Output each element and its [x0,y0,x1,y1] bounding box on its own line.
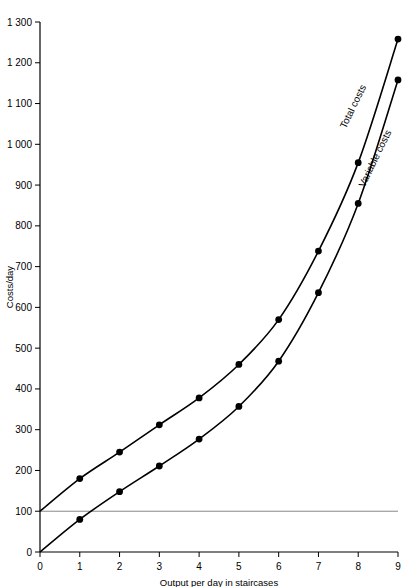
data-point-marker [76,475,83,482]
y-axis-tick-label: 500 [15,343,32,354]
y-axis-tick-label: 0 [26,547,32,558]
data-point-marker [395,36,402,43]
x-axis-tick-label: 4 [196,561,202,572]
x-axis-title: Output per day in staircases [160,577,279,587]
x-axis-tick-label: 2 [117,561,123,572]
y-axis-tick-label: 200 [15,465,32,476]
y-axis-tick-label: 100 [15,506,32,517]
x-axis-tick-label: 1 [77,561,83,572]
y-axis-tick-label: 600 [15,302,32,313]
y-axis-tick-label: 800 [15,220,32,231]
data-point-marker [235,403,242,410]
data-point-marker [355,159,362,166]
data-point-marker [315,289,322,296]
data-point-marker [116,488,123,495]
cost-curves-chart: 01002003004005006007008009001 0001 1001 … [0,0,408,587]
data-point-marker [156,421,163,428]
data-point-marker [395,76,402,83]
series-label-2: Variable costs [356,128,393,189]
data-point-marker [275,316,282,323]
y-axis-tick-label: 700 [15,261,32,272]
y-axis-tick-label: 400 [15,383,32,394]
y-axis-tick-label: 300 [15,424,32,435]
series-label-1: Total costs [338,83,369,130]
data-point-marker [315,248,322,255]
data-point-marker [196,436,203,443]
data-point-marker [275,358,282,365]
data-point-marker [196,394,203,401]
y-axis-tick-label: 1 100 [7,98,32,109]
chart-canvas: 01002003004005006007008009001 0001 1001 … [0,0,408,587]
x-axis-tick-label: 8 [355,561,361,572]
y-axis-tick-label: 1 200 [7,57,32,68]
y-axis-tick-label: 1 300 [7,17,32,28]
data-point-marker [76,516,83,523]
y-axis-tick-label: 1 000 [7,139,32,150]
series-curve-2 [40,80,398,552]
x-axis-tick-label: 6 [276,561,282,572]
x-axis-tick-label: 0 [37,561,43,572]
y-axis-title: Costs/day [4,266,15,308]
y-axis-tick-label: 900 [15,180,32,191]
x-axis-tick-label: 9 [395,561,401,572]
data-point-marker [355,200,362,207]
data-point-marker [235,361,242,368]
x-axis-tick-label: 3 [157,561,163,572]
data-point-marker [156,463,163,470]
data-point-marker [116,449,123,456]
x-axis-tick-label: 7 [316,561,322,572]
x-axis-tick-label: 5 [236,561,242,572]
